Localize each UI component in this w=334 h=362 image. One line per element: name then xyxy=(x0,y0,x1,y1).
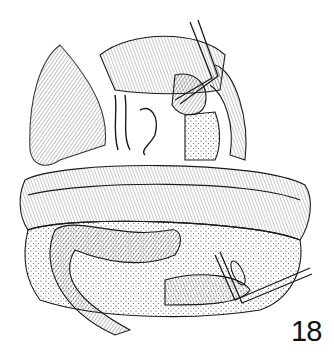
surgical-illustration xyxy=(0,0,334,362)
figure-canvas: 18 xyxy=(0,0,334,362)
liver-left-lobe xyxy=(30,45,106,165)
figure-number-label: 18 xyxy=(291,317,321,346)
